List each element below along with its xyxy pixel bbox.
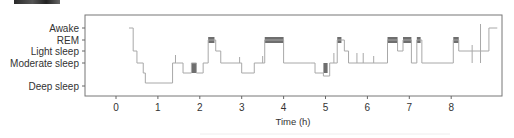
y-axis: AwakeREMLight sleepModerate sleepDeep sl… bbox=[10, 23, 85, 92]
rem-bar bbox=[323, 63, 327, 73]
x-tick-label: 2 bbox=[197, 102, 203, 113]
x-axis: 012345678 bbox=[113, 96, 454, 113]
x-tick-label: 6 bbox=[365, 102, 371, 113]
y-tick-label: Moderate sleep bbox=[10, 58, 79, 69]
y-tick-label: Light sleep bbox=[31, 46, 80, 57]
x-tick-label: 1 bbox=[155, 102, 161, 113]
x-tick-label: 7 bbox=[407, 102, 413, 113]
y-tick-label: REM bbox=[57, 35, 79, 46]
y-tick-label: Deep sleep bbox=[28, 81, 79, 92]
x-tick-label: 0 bbox=[113, 102, 119, 113]
rem-bar bbox=[191, 63, 196, 73]
plot-area-frame bbox=[85, 15, 502, 96]
sleep-stage-trace bbox=[129, 24, 497, 83]
x-tick-label: 8 bbox=[448, 102, 454, 113]
y-tick-label: Awake bbox=[49, 23, 79, 34]
x-tick-label: 5 bbox=[323, 102, 329, 113]
x-tick-label: 4 bbox=[281, 102, 287, 113]
rem-highlight-bars bbox=[191, 37, 458, 73]
x-axis-title: Time (h) bbox=[275, 116, 310, 127]
x-tick-label: 3 bbox=[239, 102, 245, 113]
hypnogram-line bbox=[129, 28, 497, 83]
hypnogram-chart: AwakeREMLight sleepModerate sleepDeep sl… bbox=[0, 0, 514, 138]
